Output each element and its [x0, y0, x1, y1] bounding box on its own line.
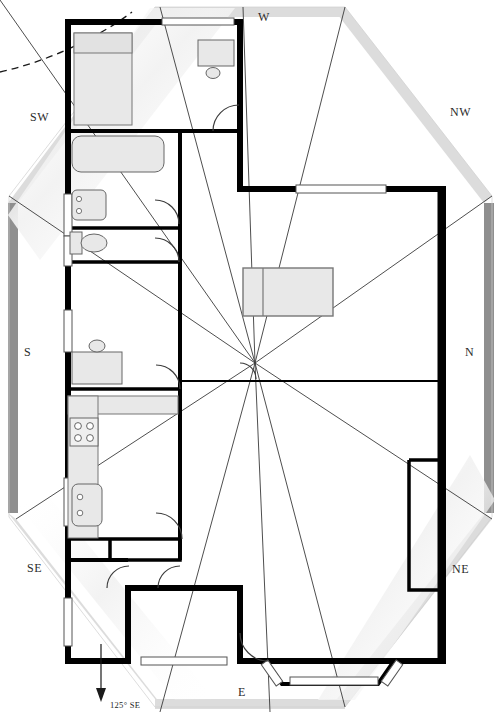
floor-plan-figure: W NW N NE E SE S SW 125° SE	[0, 0, 501, 724]
bathroom-sink-tap-2	[76, 208, 81, 213]
door-bedroom	[213, 105, 239, 131]
window-south-lower	[64, 598, 72, 646]
bay-window-center	[290, 677, 378, 685]
compass-label-e: E	[238, 685, 246, 700]
kitchen-sink-tap-2	[77, 510, 83, 516]
bed-pillow	[74, 33, 132, 53]
bearing-ray-s-upper	[9, 196, 255, 363]
bathroom-sink-basin	[72, 190, 106, 220]
bearing-annotation-label: 125° SE	[110, 700, 140, 710]
kitchen-sink	[72, 484, 102, 526]
floor-plan-canvas	[0, 0, 501, 724]
door-bath-upper	[155, 200, 179, 224]
table-lamp	[89, 340, 105, 352]
bearing-ray-n-lower	[255, 363, 492, 519]
window-top	[162, 18, 234, 25]
octagon-side-s	[8, 203, 18, 513]
bathtub	[72, 136, 164, 172]
door-entry	[240, 633, 268, 661]
octagon-side-e	[155, 699, 345, 709]
compass-label-s: S	[24, 345, 31, 360]
partition-hall-closet	[110, 539, 180, 560]
toilet-bowl	[81, 234, 107, 252]
compass-label-nw: NW	[450, 105, 471, 120]
stove-burner-1	[75, 423, 82, 430]
table	[72, 352, 122, 384]
bearing-ray-ne	[255, 363, 345, 707]
compass-label-ne: NE	[452, 562, 469, 577]
sofa	[243, 268, 333, 316]
door-kitchen	[156, 365, 180, 389]
chair	[206, 68, 220, 79]
kitchen-sink-tap-1	[77, 494, 83, 500]
bearing-arrow	[92, 644, 116, 706]
window-nw	[296, 185, 386, 193]
window-west-upper	[64, 194, 72, 236]
light-beam-se	[18, 498, 215, 700]
door-hall-right	[158, 566, 180, 588]
bathroom-sink-tap-1	[76, 196, 81, 201]
compass-label-sw: SW	[30, 110, 49, 125]
kitchen-stove	[70, 418, 98, 446]
octagon-side-n	[484, 203, 494, 513]
desk	[198, 40, 234, 66]
door-bath-lower	[155, 238, 179, 262]
bay-window-pane-left	[141, 657, 227, 665]
compass-label-se: SE	[27, 561, 42, 576]
stove-burner-4	[87, 435, 94, 442]
window-west-lower	[64, 310, 72, 352]
stove-burner-2	[87, 423, 94, 430]
toilet-cistern	[70, 232, 82, 254]
compass-label-w: W	[258, 10, 270, 25]
stove-burner-3	[75, 435, 82, 442]
compass-label-n: N	[465, 345, 474, 360]
